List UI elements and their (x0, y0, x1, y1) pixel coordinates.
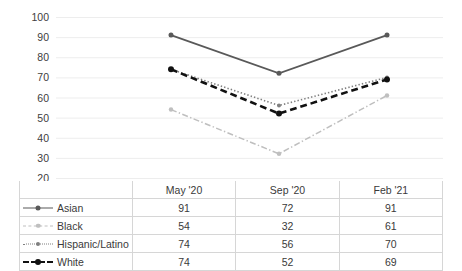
table-column-header-3: Feb '21 (339, 181, 442, 199)
legend-wrap: White (23, 256, 129, 268)
table-cell-value: 91 (339, 199, 442, 217)
legend-dot (36, 205, 41, 210)
y-axis-tick-label: 70 (37, 71, 49, 83)
table-cell-value: 32 (236, 217, 339, 235)
data-point-marker (169, 107, 174, 112)
table-cell-value: 61 (339, 217, 442, 235)
legend-dot (36, 242, 40, 246)
table-row: Hispanic/Latino745670 (20, 235, 443, 253)
data-point-marker (169, 33, 174, 38)
y-axis-tick-label: 90 (37, 31, 49, 43)
chart-data-table: May '20Sep '20Feb '21Asian917291Black543… (19, 181, 443, 271)
data-point-marker (277, 71, 282, 76)
y-axis-tick-label: 40 (37, 132, 49, 144)
data-point-marker (168, 66, 174, 72)
table-cell-value: 74 (132, 253, 236, 271)
legend-marker-icon (23, 238, 53, 249)
legend-marker-icon (23, 202, 53, 213)
table-cell-value: 70 (339, 235, 442, 253)
legend-wrap: Asian (23, 202, 129, 214)
table-column-header-2: Sep '20 (236, 181, 339, 199)
legend-label: Black (57, 220, 83, 232)
y-axis-tick-label: 50 (37, 112, 49, 124)
table-cell-value: 52 (236, 253, 339, 271)
data-point-marker (277, 104, 281, 108)
series-black (169, 93, 390, 156)
legend-wrap: Black (23, 220, 129, 232)
y-axis-tick-label: 30 (37, 152, 49, 164)
series-line (171, 35, 387, 73)
legend-label: Hispanic/Latino (57, 238, 129, 250)
table-column-header-1: May '20 (132, 181, 236, 199)
series-asian (169, 33, 390, 76)
data-point-marker (384, 76, 390, 82)
legend-entry-asian: Asian (20, 199, 133, 217)
y-axis-tick-label: 80 (37, 51, 49, 63)
table-row: Black543261 (20, 217, 443, 235)
y-axis-tick-label: 100 (31, 11, 49, 23)
data-point-marker (276, 111, 282, 117)
legend-wrap: Hispanic/Latino (23, 238, 129, 250)
legend-label: Asian (57, 202, 83, 214)
table-cell-value: 72 (236, 199, 339, 217)
table-cell-value: 74 (132, 235, 236, 253)
table-row: Asian917291 (20, 199, 443, 217)
legend-dot (35, 259, 41, 265)
data-point-marker (385, 93, 390, 98)
table-cell-value: 56 (236, 235, 339, 253)
legend-marker-icon (23, 220, 53, 231)
table-corner-cell (20, 181, 133, 199)
table-cell-value: 54 (132, 217, 236, 235)
legend-label: White (57, 256, 84, 268)
table-body: May '20Sep '20Feb '21Asian917291Black543… (20, 181, 443, 271)
legend-entry-black: Black (20, 217, 133, 235)
line-chart-svg: 1009080706050403020 (0, 0, 462, 181)
data-point-marker (385, 33, 390, 38)
table-row: White745269 (20, 253, 443, 271)
table-cell-value: 69 (339, 253, 442, 271)
legend-entry-white: White (20, 253, 133, 271)
table-cell-value: 91 (132, 199, 236, 217)
legend-marker-icon (23, 256, 53, 267)
table-header-row: May '20Sep '20Feb '21 (20, 181, 443, 199)
plot-area: 1009080706050403020 (0, 0, 462, 181)
legend-dot (36, 223, 41, 228)
data-point-marker (277, 152, 282, 157)
y-axis-tick-label: 60 (37, 92, 49, 104)
y-axis-tick-label: 20 (37, 172, 49, 181)
legend-entry-hispanic-latino: Hispanic/Latino (20, 235, 133, 253)
